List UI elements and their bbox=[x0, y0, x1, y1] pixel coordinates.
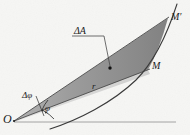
origin-dot bbox=[13, 120, 15, 122]
diagram-canvas bbox=[0, 0, 190, 135]
area-element-dot bbox=[108, 66, 111, 69]
label-radius: r bbox=[92, 82, 96, 91]
polar-area-element-figure: O M M′ ΔA r Δφ φ bbox=[0, 0, 190, 135]
label-point-m: M bbox=[152, 61, 160, 71]
label-angle: φ bbox=[45, 104, 50, 113]
label-area-element: ΔA bbox=[74, 26, 86, 36]
label-origin: O bbox=[3, 113, 12, 125]
label-angle-increment: Δφ bbox=[22, 91, 32, 100]
label-point-m-prime: M′ bbox=[171, 12, 182, 22]
